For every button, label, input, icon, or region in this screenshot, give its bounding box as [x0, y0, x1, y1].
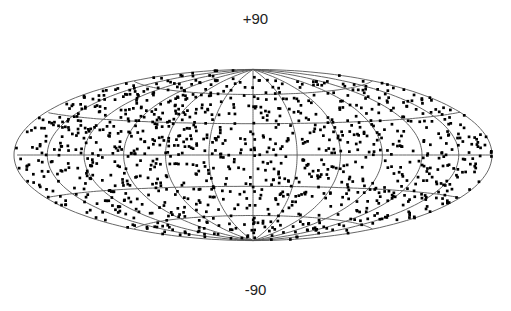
north-pole-label: +90: [0, 10, 511, 27]
graticule-grid: [14, 69, 492, 240]
south-pole-label: -90: [0, 281, 511, 298]
sky-map-hammer-projection: [0, 0, 511, 311]
